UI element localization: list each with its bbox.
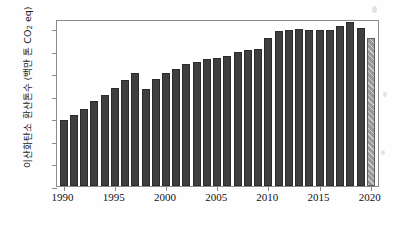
scan-artifact <box>372 6 377 13</box>
x-tick-label-2000: 2000 <box>145 191 185 203</box>
x-tick-label-2020: 2020 <box>350 191 390 203</box>
x-tick-label-2010: 2010 <box>247 191 287 203</box>
scan-artifact <box>381 150 385 155</box>
x-tick-label-1995: 1995 <box>94 191 134 203</box>
x-tick-label-1990: 1990 <box>43 191 83 203</box>
chart-figure: 이산화탄소 환산톤수 (백만 톤 CO2 eq) 010020030040050… <box>0 0 400 227</box>
scan-artifact <box>383 92 387 97</box>
x-tick-label-2005: 2005 <box>196 191 236 203</box>
x-tick-label-2015: 2015 <box>299 191 339 203</box>
x-axis-labels: 1990199520002005201020152020 <box>56 0 379 227</box>
